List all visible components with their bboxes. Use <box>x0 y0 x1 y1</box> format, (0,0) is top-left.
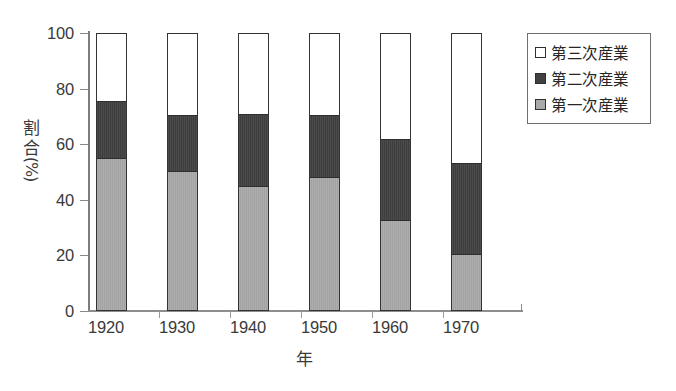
y-tick-label-20: 20 <box>56 247 74 263</box>
x-tick-label-1950: 1950 <box>289 318 349 337</box>
bar-1960-segment-tertiary <box>381 34 410 139</box>
plot-area <box>88 33 520 311</box>
bar-1960-segment-secondary <box>381 139 410 221</box>
bar-1920-segment-secondary <box>97 101 126 159</box>
bar-1930-segment-tertiary <box>168 34 197 115</box>
dark-square-icon <box>535 73 546 84</box>
bar-1970[interactable] <box>451 33 482 311</box>
bar-1920-segment-primary <box>97 159 126 310</box>
y-tick-mark-100 <box>80 33 88 34</box>
white-square-icon <box>535 47 546 58</box>
chart-legend: 第三次産業 第二次産業 第一次産業 <box>527 33 651 124</box>
y-tick-label-60: 60 <box>56 136 74 152</box>
bar-1940-segment-secondary <box>239 114 268 187</box>
y-axis-title-main: 割合 <box>16 118 46 158</box>
x-tick-label-1960: 1960 <box>360 318 420 337</box>
bar-1950[interactable] <box>309 33 340 311</box>
y-tick-mark-20 <box>80 255 88 256</box>
legend-item-secondary[interactable]: 第二次産業 <box>535 65 644 91</box>
y-axis-tick-labels: 100 80 60 40 20 0 <box>0 0 78 391</box>
bar-1940-segment-tertiary <box>239 34 268 114</box>
bar-1950-segment-secondary <box>310 115 339 177</box>
y-tick-label-0: 0 <box>65 303 74 319</box>
bar-1920[interactable] <box>96 33 127 311</box>
bar-1960[interactable] <box>380 33 411 311</box>
bar-1920-segment-tertiary <box>97 34 126 101</box>
bar-1950-segment-primary <box>310 178 339 310</box>
bar-1940-segment-primary <box>239 187 268 310</box>
bar-1960-segment-primary <box>381 221 410 310</box>
legend-label-secondary: 第二次産業 <box>551 67 629 89</box>
x-tick-mark-5 <box>443 311 444 318</box>
legend-label-tertiary: 第三次産業 <box>551 41 629 63</box>
y-tick-mark-80 <box>80 89 88 90</box>
legend-item-tertiary[interactable]: 第三次産業 <box>535 39 644 65</box>
legend-item-primary[interactable]: 第一次産業 <box>535 91 644 117</box>
x-tick-label-1920: 1920 <box>76 318 136 337</box>
bar-1970-segment-tertiary <box>452 34 481 163</box>
y-tick-label-80: 80 <box>56 81 74 97</box>
x-tick-mark-4 <box>372 311 373 318</box>
x-tick-label-1930: 1930 <box>147 318 207 337</box>
x-tick-label-1970: 1970 <box>431 318 491 337</box>
bar-1970-segment-secondary <box>452 163 481 255</box>
y-tick-mark-60 <box>80 144 88 145</box>
bar-1940[interactable] <box>238 33 269 311</box>
x-tick-mark-2 <box>230 311 231 318</box>
x-tick-label-1940: 1940 <box>218 318 278 337</box>
y-tick-label-40: 40 <box>56 192 74 208</box>
y-tick-label-100: 100 <box>47 25 74 41</box>
y-tick-mark-40 <box>80 200 88 201</box>
bar-1970-segment-primary <box>452 255 481 310</box>
x-tick-mark-1 <box>159 311 160 318</box>
gray-square-icon <box>535 99 546 110</box>
bar-1930-segment-primary <box>168 172 197 310</box>
bar-1950-segment-tertiary <box>310 34 339 115</box>
x-axis-title: 年 <box>88 345 520 370</box>
chart-figure: 100 80 60 40 20 0 割合 (%) <box>0 0 676 391</box>
x-axis-end-cap <box>521 304 522 312</box>
bar-1930[interactable] <box>167 33 198 311</box>
bar-1930-segment-secondary <box>168 115 197 172</box>
y-axis-title: 割合 (%) <box>16 118 46 178</box>
y-axis-title-unit: (%) <box>22 157 40 182</box>
y-tick-mark-0 <box>80 311 88 312</box>
legend-label-primary: 第一次産業 <box>551 93 629 115</box>
x-tick-mark-3 <box>301 311 302 318</box>
